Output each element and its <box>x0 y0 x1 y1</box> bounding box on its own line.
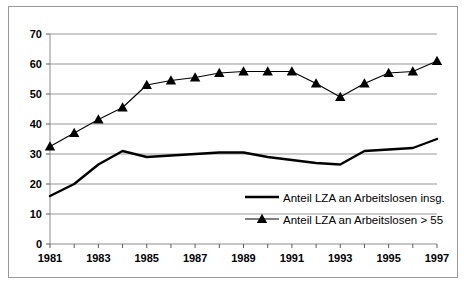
legend-label-0: Anteil LZA an Arbeitslosen insg. <box>283 192 445 204</box>
x-tick-label: 1983 <box>86 252 110 264</box>
x-tick-label: 1991 <box>280 252 304 264</box>
x-tick-label: 1981 <box>38 252 62 264</box>
y-tick-label: 10 <box>30 208 42 220</box>
y-tick-label: 30 <box>30 148 42 160</box>
y-tick-marks <box>46 34 50 244</box>
y-tick-label: 0 <box>36 238 42 250</box>
y-tick-label: 70 <box>30 28 42 40</box>
y-tick-label: 60 <box>30 58 42 70</box>
y-tick-label: 40 <box>30 118 42 130</box>
x-tick-label: 1985 <box>135 252 159 264</box>
x-tick-label: 1989 <box>231 252 255 264</box>
x-tick-label: 1987 <box>183 252 207 264</box>
y-tick-label: 20 <box>30 178 42 190</box>
x-tick-marks <box>50 244 437 248</box>
line-chart: 010203040506070 198119831985198719891991… <box>9 7 457 277</box>
legend-label-1: Anteil LZA an Arbeitslosen > 55 <box>283 214 443 226</box>
chart-container: 010203040506070 198119831985198719891991… <box>8 6 458 278</box>
x-tick-labels: 198119831985198719891991199319951997 <box>38 252 449 264</box>
y-tick-labels: 010203040506070 <box>30 28 42 250</box>
x-tick-label: 1993 <box>328 252 352 264</box>
plot-area-background <box>50 34 437 244</box>
y-tick-label: 50 <box>30 88 42 100</box>
x-tick-label: 1997 <box>425 252 449 264</box>
x-tick-label: 1995 <box>376 252 400 264</box>
